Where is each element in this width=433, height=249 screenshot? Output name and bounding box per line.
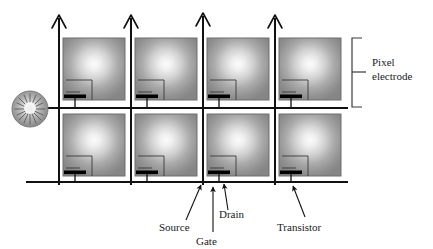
drain-label: Drain [219,208,245,220]
pixel-cell [279,38,341,108]
pixel-cell [207,38,269,108]
source-label: Source [159,221,190,233]
pixel-cell [63,38,125,108]
pixel-cell [63,114,125,182]
pixel-array-diagram: Pixel electrode Source Gate Drain Transi… [0,0,433,249]
backlight-source-icon [12,91,48,127]
pixel-electrode-label-line2: electrode [372,70,412,82]
pixel-cell [135,38,197,108]
diagram-canvas: Pixel electrode Source Gate Drain Transi… [0,0,433,249]
pixel-cell [135,114,197,182]
pixel-electrode-label-line1: Pixel [372,56,395,68]
pixel-cell [207,114,269,182]
gate-label: Gate [196,235,217,247]
transistor-label: Transistor [277,221,322,233]
pixel-cell [279,114,341,182]
